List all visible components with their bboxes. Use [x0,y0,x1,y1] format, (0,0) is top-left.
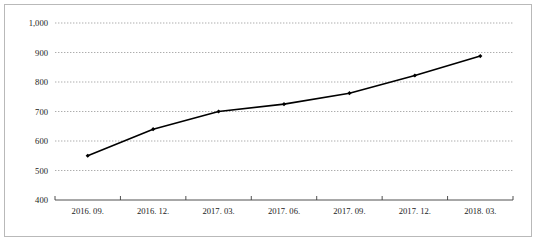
chart-frame: 4005006007008009001,0002016. 09.2016. 12… [4,4,532,237]
y-axis-tick-label: 400 [35,195,48,205]
data-point-marker [282,102,286,106]
y-axis-tick-label: 800 [35,77,48,87]
data-point-marker [86,154,90,158]
x-axis-tick-label: 2017. 12. [399,206,431,216]
x-axis-tick-label: 2016. 09. [72,206,104,216]
x-axis-tick-label: 2016. 12. [137,206,169,216]
data-point-marker [216,109,220,113]
x-axis-tick-label: 2017. 03. [202,206,234,216]
plot-area: 4005006007008009001,0002016. 09.2016. 12… [5,5,531,236]
data-point-marker [413,73,417,77]
y-axis-tick-label: 1,000 [29,18,48,28]
y-axis-tick-label: 900 [35,48,48,58]
data-point-marker [478,54,482,58]
y-axis-tick-label: 500 [35,166,48,176]
y-axis-tick-label: 600 [35,136,48,146]
line-chart: 4005006007008009001,0002016. 09.2016. 12… [5,5,531,236]
x-axis-tick-label: 2017. 06. [268,206,300,216]
x-axis-tick-label: 2018. 03. [464,206,496,216]
data-point-marker [151,127,155,131]
x-axis-tick-label: 2017. 09. [333,206,365,216]
data-point-marker [347,91,351,95]
y-axis-tick-label: 700 [35,107,48,117]
